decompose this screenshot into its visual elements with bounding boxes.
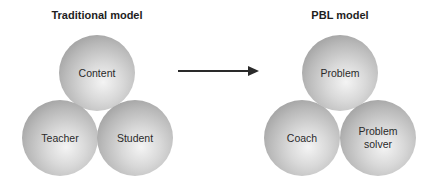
arrow-shaft <box>178 70 250 72</box>
sphere-label: Content <box>79 67 116 80</box>
sphere-label: Coach <box>287 132 317 145</box>
sphere-student: Student <box>97 100 173 176</box>
traditional-model-title: Traditional model <box>27 9 167 21</box>
pbl-model-title: PBL model <box>270 9 410 21</box>
sphere-content: Content <box>59 35 135 111</box>
sphere-label: Problem <box>320 67 359 80</box>
sphere-label: Teacher <box>41 132 78 145</box>
sphere-problem-solver: Problem solver <box>340 100 416 176</box>
sphere-problem: Problem <box>302 35 378 111</box>
sphere-teacher: Teacher <box>22 100 98 176</box>
arrow-right-icon <box>248 66 259 76</box>
sphere-label-line2: solver <box>364 138 392 151</box>
sphere-coach: Coach <box>264 100 340 176</box>
sphere-label: Student <box>117 132 153 145</box>
sphere-label-line1: Problem <box>358 125 397 138</box>
